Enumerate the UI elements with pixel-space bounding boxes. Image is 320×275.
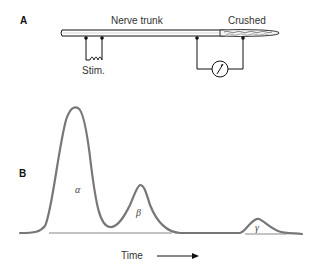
time-axis-label: Time bbox=[121, 250, 143, 261]
galvanometer-icon bbox=[212, 61, 228, 77]
time-arrow-icon bbox=[157, 253, 199, 259]
coil-icon bbox=[90, 57, 102, 60]
panel-a-label: A bbox=[20, 15, 27, 26]
crushed-segment bbox=[220, 30, 279, 37]
gamma-label: γ bbox=[255, 222, 260, 233]
crushed-label: Crushed bbox=[228, 15, 266, 26]
diagram-canvas: A Nerve trunk Crushed Stim. B α β bbox=[0, 0, 320, 275]
nerve-trunk-label: Nerve trunk bbox=[111, 15, 164, 26]
alpha-label: α bbox=[75, 184, 81, 195]
beta-label: β bbox=[135, 207, 141, 218]
panel-b-label: B bbox=[19, 168, 26, 179]
compound-action-potential-trace bbox=[20, 107, 302, 234]
nerve-trunk bbox=[61, 30, 225, 36]
stim-label: Stim. bbox=[82, 65, 105, 76]
stimulating-electrodes bbox=[84, 36, 104, 60]
